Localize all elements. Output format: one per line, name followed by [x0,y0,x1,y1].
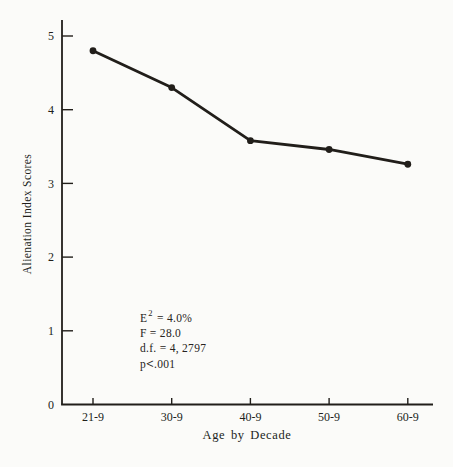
x-tick-label: 60-9 [397,410,419,424]
x-tick-label: 30-9 [161,410,183,424]
x-tick-label: 50-9 [318,410,340,424]
y-tick-label: 0 [48,398,54,412]
data-point-marker [404,161,411,168]
y-tick-label: 3 [48,177,54,191]
e-superscript: 2 [148,308,153,318]
line-chart: 01234521-930-940-950-960-9Alienation Ind… [0,0,453,467]
data-point-marker [247,137,254,144]
less-than-sign: < [146,356,154,371]
x-axis-title: Age by Decade [203,428,292,442]
e-base: E [140,312,147,324]
annotation-line-df: d.f. = 4, 2797 [140,341,206,356]
y-axis-title: Alienation Index Scores [21,154,33,274]
y-tick-label: 1 [48,324,54,338]
data-point-marker [326,146,333,153]
data-line [93,51,408,164]
annotation-line-p: p<.001 [140,356,206,372]
p-value: .001 [154,358,175,370]
annotation-line-f: F = 28.0 [140,326,206,341]
data-point-marker [168,84,175,91]
x-tick-label: 40-9 [239,410,261,424]
annotation-line-e-squared: E2 = 4.0% [140,311,206,326]
y-tick-label: 2 [48,250,54,264]
data-point-marker [90,47,97,54]
stats-annotation: E2 = 4.0% F = 28.0 d.f. = 4, 2797 p<.001 [140,311,206,372]
scanned-chart-page: 01234521-930-940-950-960-9Alienation Ind… [0,0,453,467]
y-tick-label: 5 [48,29,54,43]
x-tick-label: 21-9 [82,410,104,424]
e-value: = 4.0% [154,312,192,324]
y-tick-label: 4 [48,103,54,117]
